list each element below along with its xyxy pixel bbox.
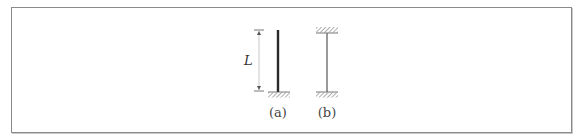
fixed-support-top-hatch-icon bbox=[316, 27, 338, 33]
arrow-up-icon bbox=[257, 31, 261, 35]
column-diagram: L (a) (b) bbox=[0, 0, 584, 140]
caption-b: (b) bbox=[318, 105, 336, 120]
length-label: L bbox=[243, 53, 253, 68]
dimension-line-L bbox=[254, 30, 264, 91]
caption-a: (a) bbox=[269, 105, 287, 120]
column-a bbox=[268, 30, 290, 98]
fixed-support-bottom-hatch-icon bbox=[316, 93, 338, 98]
column-b bbox=[316, 27, 338, 98]
arrow-down-icon bbox=[257, 86, 261, 90]
fixed-support-hatch-icon bbox=[268, 93, 290, 98]
